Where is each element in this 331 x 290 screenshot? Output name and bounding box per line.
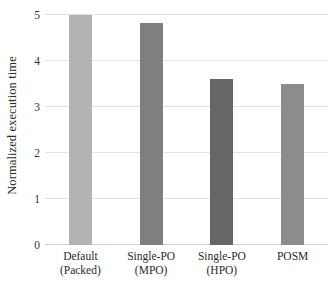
x-category-label: Single-PO (MPO): [116, 249, 187, 277]
y-axis-title-text: Normalized execution time: [5, 56, 20, 195]
plot-area: [45, 15, 328, 245]
y-tick-label: 5: [34, 9, 40, 21]
y-tick-label: 3: [34, 101, 40, 113]
y-axis-tick-labels: 012345: [22, 0, 42, 260]
bar[interactable]: [140, 23, 163, 245]
bar[interactable]: [69, 15, 92, 245]
bar[interactable]: [281, 84, 304, 245]
y-tick-label: 2: [34, 147, 40, 159]
y-tick-label: 1: [34, 193, 40, 205]
x-category-label: POSM: [257, 249, 328, 263]
y-tick-label: 0: [34, 239, 40, 251]
y-tick-label: 4: [34, 55, 40, 67]
x-category-label: Single-PO (HPO): [187, 249, 258, 277]
y-axis-title: Normalized execution time: [0, 0, 24, 250]
x-axis-category-labels: Default (Packed)Single-PO (MPO)Single-PO…: [45, 249, 328, 289]
bar-chart-figure: Normalized execution time 012345 Default…: [0, 0, 331, 290]
bar[interactable]: [210, 79, 233, 245]
x-category-label: Default (Packed): [45, 249, 116, 277]
bars-layer: [45, 15, 328, 245]
